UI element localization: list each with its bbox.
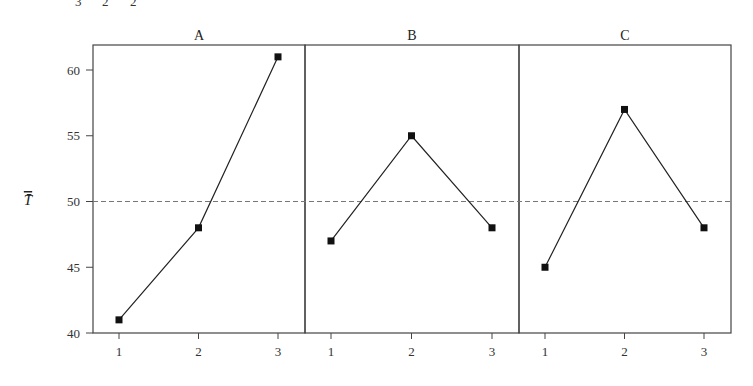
x-tick-label: 2 <box>621 344 628 359</box>
y-tick-label: 55 <box>67 128 80 143</box>
series-line <box>331 136 492 241</box>
x-tick-label: 1 <box>116 344 123 359</box>
y-tick-label: 50 <box>67 194 80 209</box>
x-tick-label: 3 <box>701 344 708 359</box>
data-point-marker <box>542 264 549 271</box>
series-line <box>119 57 278 320</box>
data-point-marker <box>408 132 415 139</box>
y-tick-label: 45 <box>67 260 80 275</box>
data-point-marker <box>489 224 496 231</box>
x-tick-label: 3 <box>275 344 282 359</box>
x-tick-label: 1 <box>542 344 549 359</box>
data-point-marker <box>701 224 708 231</box>
panel-frame-b <box>305 45 519 333</box>
series-line <box>545 109 704 267</box>
main-effects-chart: 4045505560 A123B123C123 T̄ <box>0 0 753 386</box>
y-tick-label: 40 <box>67 326 80 341</box>
panel-a: A123 <box>116 28 282 359</box>
panel-frame-c <box>519 45 731 333</box>
data-point-marker <box>621 106 628 113</box>
x-tick-label: 1 <box>328 344 335 359</box>
data-point-marker <box>195 224 202 231</box>
x-tick-label: 3 <box>489 344 496 359</box>
x-tick-label: 2 <box>195 344 202 359</box>
panel-title: A <box>194 28 205 43</box>
panel-title: B <box>407 28 416 43</box>
panel-c: C123 <box>542 28 708 359</box>
data-point-marker <box>116 316 123 323</box>
panel-b: B123 <box>328 28 496 359</box>
panel-title: C <box>620 28 629 43</box>
data-point-marker <box>328 237 335 244</box>
y-tick-label: 60 <box>67 63 80 78</box>
y-axis: 4045505560 <box>67 63 93 341</box>
panels: A123B123C123 <box>116 28 708 359</box>
y-axis-label: T̄ <box>24 192 34 208</box>
panel-frame-a <box>93 45 305 333</box>
panel-frames <box>93 45 731 333</box>
x-tick-label: 2 <box>408 344 415 359</box>
data-point-marker <box>275 53 282 60</box>
